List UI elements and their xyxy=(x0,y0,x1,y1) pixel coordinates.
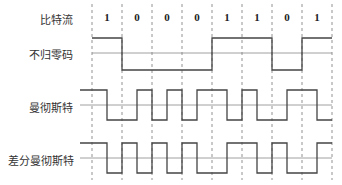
encoding-diagram: 10001101 xyxy=(0,0,342,185)
bit-value: 0 xyxy=(284,11,290,23)
nrz-signal xyxy=(92,38,332,70)
bit-value: 0 xyxy=(134,11,140,23)
bit-value: 0 xyxy=(164,11,170,23)
bit-value: 1 xyxy=(104,11,110,23)
bit-value: 0 xyxy=(194,11,200,23)
bit-value: 1 xyxy=(254,11,260,23)
bit-boundaries xyxy=(92,4,332,180)
bit-value: 1 xyxy=(314,11,320,23)
bit-value: 1 xyxy=(224,11,230,23)
